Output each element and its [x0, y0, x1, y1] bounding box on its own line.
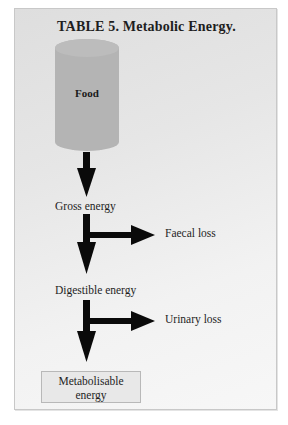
gross-energy-label: Gross energy — [55, 200, 116, 212]
arrow-down-icon — [77, 152, 96, 197]
metabolisable-energy-line1: Metabolisable — [42, 374, 140, 388]
metabolisable-energy-box: Metabolisable energy — [41, 371, 141, 403]
diagram-panel: TABLE 5. Metabolic Energy. Food Gross en… — [14, 8, 277, 410]
urinary-loss-label: Urinary loss — [165, 313, 222, 325]
metabolisable-energy-line2: energy — [42, 388, 140, 402]
arrow-right-icon — [89, 311, 155, 331]
arrow-down-icon — [77, 300, 96, 362]
faecal-loss-label: Faecal loss — [165, 227, 216, 239]
arrow-right-icon — [89, 225, 155, 245]
arrow-down-icon — [77, 214, 96, 274]
digestible-energy-label: Digestible energy — [55, 284, 136, 296]
